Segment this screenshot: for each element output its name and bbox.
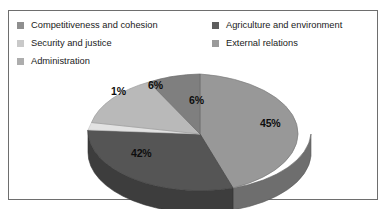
legend-item-administration[interactable]: Administration: [17, 53, 212, 70]
pie-label-6-percent-administration: 6%: [148, 79, 163, 91]
legend-item-label: Administration: [31, 56, 90, 67]
legend-swatch-icon: [17, 58, 24, 65]
pie-label-6-percent-external-relations: 6%: [189, 94, 204, 106]
pie-label-45-percent: 45%: [260, 117, 280, 129]
pie-chart-area: 1% 6% 6% 45% 42%: [21, 69, 383, 209]
chart-frame: Competitiveness and cohesion Security an…: [8, 10, 378, 200]
legend-swatch-icon: [17, 40, 24, 47]
legend-item-security-and-justice[interactable]: Security and justice: [17, 35, 212, 52]
legend-item-label: Competitiveness and cohesion: [31, 20, 158, 31]
chart-screenshot: Competitiveness and cohesion Security an…: [0, 0, 389, 210]
legend-item-agriculture-and-environment[interactable]: Agriculture and environment: [212, 17, 377, 34]
legend-swatch-icon: [212, 22, 219, 29]
legend-swatch-icon: [212, 40, 219, 47]
legend-column-left: Competitiveness and cohesion Security an…: [17, 17, 212, 71]
legend-item-external-relations[interactable]: External relations: [212, 35, 377, 52]
pie-chart-svg: [21, 69, 383, 209]
legend-item-label: Security and justice: [31, 38, 112, 49]
legend-column-right: Agriculture and environment External rel…: [212, 17, 377, 53]
legend-item-competitiveness-and-cohesion[interactable]: Competitiveness and cohesion: [17, 17, 212, 34]
pie-label-42-percent: 42%: [131, 147, 151, 159]
legend-item-label: External relations: [226, 38, 298, 49]
legend-swatch-icon: [17, 22, 24, 29]
pie-label-1-percent: 1%: [111, 85, 126, 97]
legend-item-label: Agriculture and environment: [226, 20, 342, 31]
